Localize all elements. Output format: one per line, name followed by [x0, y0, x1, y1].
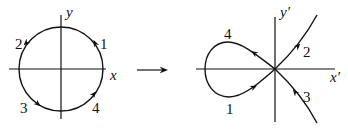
- label-3: 3: [20, 100, 28, 116]
- x-prime-axis-label: x′: [329, 69, 341, 85]
- lower-branch: [275, 69, 317, 123]
- label-4: 4: [224, 26, 232, 42]
- label-1: 1: [226, 101, 234, 117]
- label-2: 2: [303, 44, 311, 60]
- left-diagram: 1 2 3 4 x y: [9, 4, 117, 119]
- conformal-mapping-diagram: 1 2 3 4 x y 1 2 3 4 x′ y′: [0, 0, 348, 130]
- upper-branch: [275, 15, 317, 69]
- right-diagram: 1 2 3 4 x′ y′: [196, 4, 341, 123]
- label-4: 4: [92, 100, 100, 116]
- y-prime-axis-label: y′: [278, 4, 291, 20]
- y-axis-label: y: [64, 4, 73, 20]
- label-3: 3: [303, 89, 311, 105]
- label-1: 1: [100, 36, 108, 52]
- x-axis-label: x: [109, 67, 117, 83]
- label-2: 2: [15, 36, 23, 52]
